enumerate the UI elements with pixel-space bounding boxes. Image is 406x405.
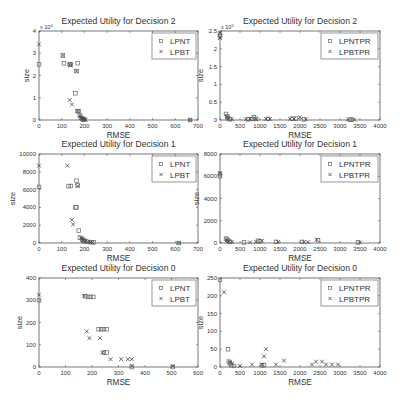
y-tick-label: 0 <box>214 117 218 123</box>
x-tick-label: 1500 <box>273 123 287 129</box>
x-tick-label: 200 <box>79 246 90 252</box>
y-tick-label: 4 <box>33 28 37 34</box>
chart-title: Expected Utility for Decision 2 <box>61 16 175 26</box>
x-tick-label: 400 <box>125 123 136 129</box>
legend-label: LPBTPR <box>339 171 370 180</box>
x-tick-label: 3500 <box>353 246 367 252</box>
y-tick-label: 10000 <box>19 151 36 157</box>
y-axis-label: size <box>22 69 31 82</box>
x-tick-label: 1000 <box>253 246 267 252</box>
x-tick-label: 2500 <box>313 246 327 252</box>
x-tick-label: 300 <box>113 370 124 376</box>
y-tick-label: 200 <box>26 320 37 326</box>
y-axis-label: size <box>196 69 205 82</box>
x-tick-label: 200 <box>79 123 90 129</box>
y-tick-label: 2 <box>33 73 37 79</box>
y-tick-label: 0 <box>33 240 37 246</box>
y-tick-label: 400 <box>26 275 37 281</box>
x-tick-label: 1500 <box>273 246 287 252</box>
legend-label: LPBT <box>170 295 190 304</box>
legend: LPNTPRLPBTPR <box>321 280 378 306</box>
x-tick-label: 0 <box>218 123 222 129</box>
chart-panel-mr: Expected Utility for Decision 1050010001… <box>192 139 387 263</box>
legend-label: LPNTPR <box>339 37 371 46</box>
y-axis-label: size <box>196 316 205 329</box>
x-tick-label: 3500 <box>353 370 367 376</box>
x-tick-label: 700 <box>193 123 204 129</box>
chart-panel-br: Expected Utility for Decision 0050010001… <box>196 263 388 387</box>
legend: LPNTPRLPBTPR <box>321 33 378 59</box>
y-tick-label: 8000 <box>204 151 218 157</box>
legend-label: LPNT <box>170 37 191 46</box>
y-tick-label: 50 <box>210 346 217 352</box>
y-tick-label: 1.5 <box>209 64 218 70</box>
x-tick-label: 2000 <box>293 246 307 252</box>
x-tick-label: 500 <box>235 123 246 129</box>
y-tick-label: 0.5 <box>209 99 218 105</box>
x-tick-label: 600 <box>170 123 181 129</box>
figure: Expected Utility for Decision 2010020030… <box>0 0 406 405</box>
x-tick-label: 400 <box>125 246 136 252</box>
x-tick-label: 3000 <box>333 246 347 252</box>
y-tick-label: 2 <box>214 46 218 52</box>
legend: LPNTLPBT <box>152 280 196 306</box>
x-tick-label: 3500 <box>353 123 367 129</box>
y-tick-label: 100 <box>26 342 37 348</box>
x-tick-label: 2000 <box>293 123 307 129</box>
chart-panel-tr: Expected Utility for Decision 2050010001… <box>196 16 388 140</box>
y-tick-label: 2.5 <box>209 28 218 34</box>
x-tick-label: 500 <box>148 246 159 252</box>
legend-label: LPNT <box>170 284 191 293</box>
x-tick-label: 0 <box>218 370 222 376</box>
y-tick-label: 150 <box>207 311 218 317</box>
legend-label: LPBT <box>170 48 190 57</box>
x-tick-label: 4000 <box>373 246 387 252</box>
x-tick-label: 700 <box>193 246 204 252</box>
x-tick-label: 400 <box>140 370 151 376</box>
x-tick-label: 600 <box>170 246 181 252</box>
legend-label: LPBT <box>170 171 190 180</box>
y-tick-label: 1 <box>214 81 218 87</box>
legend: LPNTLPBT <box>152 33 196 59</box>
x-tick-label: 0 <box>37 370 41 376</box>
y-tick-label: 6000 <box>204 173 218 179</box>
x-tick-label: 500 <box>166 370 177 376</box>
chart-panel-bl: Expected Utility for Decision 0010020030… <box>15 263 204 387</box>
x-tick-label: 600 <box>193 370 204 376</box>
y-tick-label: 0 <box>214 240 218 246</box>
y-tick-label: 1 <box>33 95 37 101</box>
y-tick-label: 4000 <box>204 196 218 202</box>
y-tick-label: 2000 <box>23 222 37 228</box>
x-tick-label: 100 <box>60 370 71 376</box>
chart-title: Expected Utility for Decision 0 <box>243 263 357 273</box>
y-tick-label: 100 <box>207 328 218 334</box>
legend: LPNTLPBT <box>152 156 196 182</box>
y-tick-label: 6000 <box>23 187 37 193</box>
y-axis-label: size <box>192 192 201 205</box>
x-tick-label: 3000 <box>333 123 347 129</box>
x-tick-label: 2500 <box>313 370 327 376</box>
legend-label: LPNTPR <box>339 160 371 169</box>
x-tick-label: 500 <box>235 370 246 376</box>
y-tick-label: 200 <box>207 293 218 299</box>
legend-label: LPBTPR <box>339 48 370 57</box>
chart-panel-tl: Expected Utility for Decision 2010020030… <box>22 16 204 140</box>
x-tick-label: 2500 <box>313 123 327 129</box>
y-multiplier: x 104 <box>40 23 53 31</box>
x-tick-label: 300 <box>102 123 113 129</box>
y-tick-label: 250 <box>207 275 218 281</box>
chart-title: Expected Utility for Decision 1 <box>61 139 175 149</box>
x-tick-label: 1000 <box>253 370 267 376</box>
y-multiplier: x 105 <box>221 23 234 31</box>
x-tick-label: 4000 <box>373 370 387 376</box>
x-tick-label: 100 <box>57 123 68 129</box>
y-tick-label: 0 <box>214 364 218 370</box>
x-axis-label: RMSE <box>288 378 312 387</box>
chart-title: Expected Utility for Decision 2 <box>243 16 357 26</box>
legend-label: LPNT <box>170 160 191 169</box>
y-tick-label: 8000 <box>23 169 37 175</box>
y-tick-label: 0 <box>33 364 37 370</box>
y-tick-label: 3 <box>33 50 37 56</box>
x-tick-label: 1000 <box>253 123 267 129</box>
y-tick-label: 2000 <box>204 218 218 224</box>
